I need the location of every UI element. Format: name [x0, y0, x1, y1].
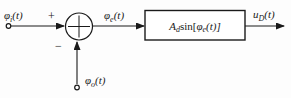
input-terminal: [6, 24, 11, 29]
phase-detector-block-diagram: φi(t) + φe(t) Adsin[φe(t)] uD(t) − φo(t): [0, 0, 291, 98]
minus-sign-label: −: [55, 39, 62, 53]
feedback-phase-label: φo(t): [85, 74, 106, 89]
output-voltage-label: uD(t): [253, 8, 275, 23]
input-phase-label: φi(t): [4, 9, 23, 24]
plus-sign-label: +: [48, 9, 55, 23]
feedback-terminal: [75, 85, 80, 90]
figure-canvas: φi(t) + φe(t) Adsin[φe(t)] uD(t) − φo(t): [0, 0, 291, 98]
error-phase-label: φe(t): [104, 9, 124, 24]
